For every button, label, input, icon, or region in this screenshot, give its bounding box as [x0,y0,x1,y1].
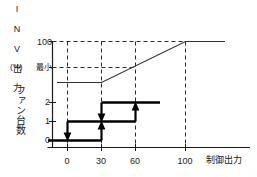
arrow-down-1-to-0-at-0 [64,122,72,142]
arrow-down-2-to-1-at-30 [98,103,106,123]
figure-canvas: I N V 出 力 (%) ファン台数 100 最小 2 1 0 0 30 60… [0,0,257,177]
inv-output-curve [57,42,225,83]
arrow-up-0-to-1-at-30 [98,121,106,141]
arrow-up-1-to-2-at-60 [132,102,140,122]
plot-svg [0,0,257,177]
